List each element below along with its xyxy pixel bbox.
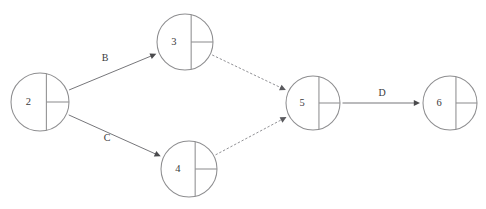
edge-4-5-arrowhead [280,117,287,123]
node-5-label: 5 [300,97,305,108]
node-5[interactable]: 5 [286,76,340,130]
edge-2-4-label: C [104,132,111,143]
edge-4-5 [216,117,287,155]
node-2[interactable]: 2 [11,73,69,131]
edge-2-3-line [69,56,152,90]
nodes-layer: 23456 [11,14,477,197]
node-3[interactable]: 3 [157,14,213,70]
node-4-label: 4 [175,163,181,174]
node-2-label: 2 [26,96,31,107]
edge-5-6-label: D [378,87,385,98]
edge-5-6 [343,100,421,106]
graph-svg: 23456 BCD [0,0,486,209]
edge-3-5 [213,55,286,90]
edge-5-6-arrowhead [414,100,420,106]
node-6-label: 6 [437,97,442,108]
diagram-canvas: 23456 BCD [0,0,486,209]
edge-2-3 [69,53,156,90]
edge-2-4-line [69,115,156,154]
edge-labels-layer: BCD [102,52,386,143]
node-6[interactable]: 6 [423,76,477,130]
node-4[interactable]: 4 [161,141,217,197]
edge-4-5-line [216,119,282,154]
edge-3-5-arrowhead [279,85,286,90]
node-3-label: 3 [171,36,176,47]
edges-layer [69,53,420,156]
edge-3-5-line [213,55,282,88]
edge-2-3-label: B [102,52,109,63]
edge-2-4 [69,115,161,157]
